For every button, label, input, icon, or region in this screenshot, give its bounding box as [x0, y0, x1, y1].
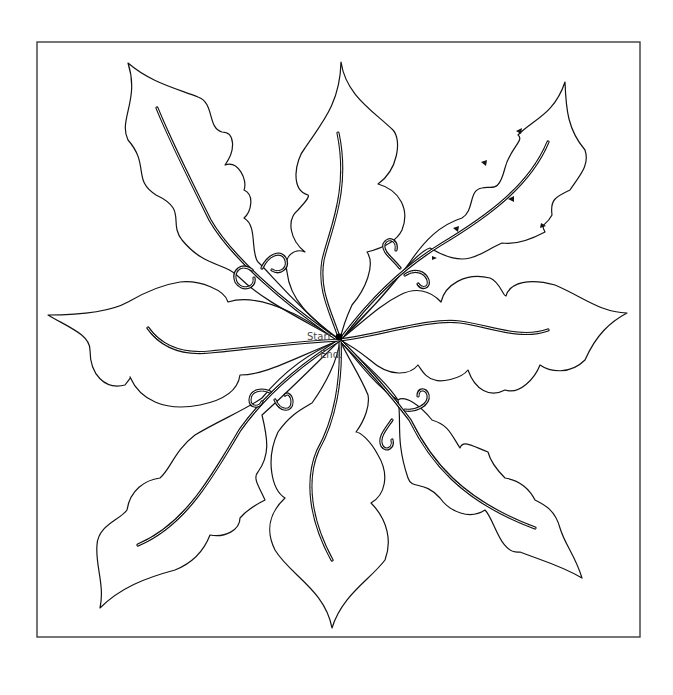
vein-upper-right [340, 142, 548, 340]
curl-upper-right-b [405, 271, 428, 287]
leaf-bottom [270, 340, 388, 628]
curl-upper-right-a [384, 240, 400, 268]
vein-top [322, 133, 342, 340]
arrow-icon [432, 256, 437, 260]
curl-lower-left-b [275, 394, 292, 409]
leaf-lower-left [97, 340, 340, 608]
vein-upper-left [157, 108, 338, 340]
vein-group [138, 108, 548, 560]
leaf-group [48, 62, 627, 628]
start-end-point [336, 334, 343, 341]
leaf-right [340, 277, 627, 394]
end-label: End. [320, 349, 342, 360]
arrow-icon [481, 160, 487, 166]
quilting-pattern-diagram: Start. End. [0, 0, 673, 695]
start-label: Start. [307, 331, 335, 342]
arrow-icon [516, 128, 522, 134]
vein-right [340, 321, 548, 340]
vein-bottom [311, 340, 340, 560]
leaf-upper-right [340, 82, 586, 340]
arrow-icon [453, 226, 459, 232]
leaf-top [286, 62, 405, 340]
